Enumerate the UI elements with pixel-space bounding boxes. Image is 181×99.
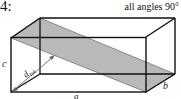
label-c: c xyxy=(2,58,7,69)
label-b: b xyxy=(163,80,168,91)
label-a: a xyxy=(74,91,79,99)
diagonal-plane xyxy=(11,18,175,92)
box-diagram: c a b d tot xyxy=(0,0,181,99)
